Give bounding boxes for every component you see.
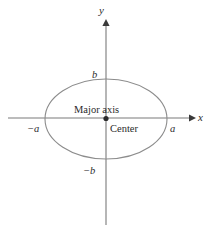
y-axis-arrowhead	[102, 19, 109, 26]
x-axis-arrowhead	[189, 114, 196, 121]
center-dot	[103, 116, 108, 121]
ellipse-diagram: y x b −b −a a Major axis Center	[0, 0, 214, 230]
diagram-canvas	[0, 0, 214, 230]
